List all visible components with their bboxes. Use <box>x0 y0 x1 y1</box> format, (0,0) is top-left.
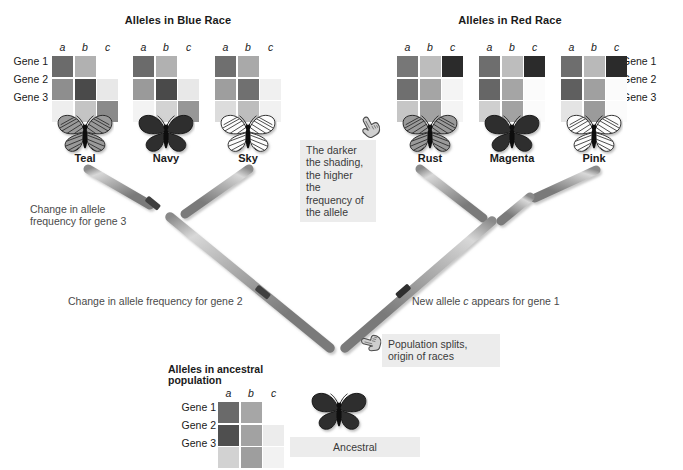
allele-column-headers: abc <box>133 42 199 53</box>
gene-label-3: Gene 3 <box>168 438 216 449</box>
allele-cell-gene1-b <box>156 56 177 77</box>
allele-column-headers: abc <box>218 388 284 399</box>
callout-shading-note: The darker the shading, the higher the f… <box>300 140 376 222</box>
allele-header-a: a <box>52 42 73 53</box>
allele-header-c: c <box>97 42 118 53</box>
allele-header-c: c <box>606 42 627 53</box>
allele-column-headers: abc <box>479 42 545 53</box>
ancestral-bar-label: Ancestral <box>290 437 420 457</box>
allele-cell-gene2-a <box>561 79 582 100</box>
gene-row-labels-ancestral: Gene 1 Gene 2 Gene 3 <box>168 402 216 449</box>
butterfly-icon <box>137 112 195 156</box>
butterfly-icon <box>310 390 368 434</box>
allele-cell-gene1-a <box>479 56 500 77</box>
gene-label-2: Gene 2 <box>622 74 680 85</box>
allele-header-a: a <box>561 42 582 53</box>
allele-column-headers: abc <box>397 42 463 53</box>
allele-header-a: a <box>397 42 418 53</box>
allele-cell-gene1-a <box>215 56 236 77</box>
allele-header-b: b <box>502 42 523 53</box>
callout-gene1-new-allele: New allele c appears for gene 1 <box>412 295 662 307</box>
allele-cell-gene1-c <box>606 56 627 77</box>
taxon-name-pink: Pink <box>561 152 627 164</box>
allele-header-c: c <box>442 42 463 53</box>
gene-row-labels-blue: Gene 1 Gene 2 Gene 3 <box>0 56 48 103</box>
allele-column-headers: abc <box>52 42 118 53</box>
butterfly-icon <box>401 112 459 156</box>
allele-cell-gene2-c <box>178 79 199 100</box>
gene-label-2: Gene 2 <box>168 420 216 431</box>
allele-header-b: b <box>584 42 605 53</box>
allele-header-b: b <box>238 42 259 53</box>
allele-cell-gene2-b <box>75 79 96 100</box>
allele-column-headers: abc <box>561 42 627 53</box>
allele-cell-gene2-b <box>156 79 177 100</box>
pointing-hand-icon <box>356 112 386 146</box>
allele-cell-gene1-a <box>133 56 154 77</box>
gene-row-labels-red: Gene 1 Gene 2 Gene 3 <box>622 56 680 103</box>
allele-cell-gene1-b <box>502 56 523 77</box>
allele-cell-gene3-a <box>218 447 239 468</box>
allele-cell-gene1-b <box>238 56 259 77</box>
blue-race-title: Alleles in Blue Race <box>88 14 268 26</box>
allele-cell-gene1-b <box>584 56 605 77</box>
allele-grid <box>218 402 284 468</box>
allele-cell-gene1-c <box>442 56 463 77</box>
allele-cell-gene2-b <box>502 79 523 100</box>
allele-header-c: c <box>263 388 284 399</box>
allele-header-a: a <box>218 388 239 399</box>
allele-cell-gene3-c <box>263 447 284 468</box>
allele-cell-gene2-c <box>606 79 627 100</box>
allele-cell-gene1-b <box>420 56 441 77</box>
allele-cell-gene2-b <box>584 79 605 100</box>
allele-cell-gene1-c <box>263 402 284 423</box>
butterfly-icon <box>56 112 114 156</box>
red-race-title: Alleles in Red Race <box>420 14 600 26</box>
butterfly-icon <box>219 112 277 156</box>
allele-cell-gene1-c <box>97 56 118 77</box>
allele-header-c: c <box>260 42 281 53</box>
new-allele-text-pre: New allele <box>412 295 463 307</box>
allele-header-a: a <box>133 42 154 53</box>
allele-cell-gene1-c <box>524 56 545 77</box>
gene-label-1: Gene 1 <box>0 56 48 67</box>
allele-cell-gene1-a <box>52 56 73 77</box>
new-allele-text-post: appears for gene 1 <box>469 295 560 307</box>
allele-header-b: b <box>241 388 262 399</box>
taxon-name-magenta: Magenta <box>479 152 545 164</box>
taxon-name-navy: Navy <box>133 152 199 164</box>
gene-label-1: Gene 1 <box>168 402 216 413</box>
allele-cell-gene2-c <box>97 79 118 100</box>
evolution-diagram: Alleles in Blue Race Alleles in Red Race… <box>0 0 683 470</box>
allele-cell-gene2-a <box>133 79 154 100</box>
taxon-name-rust: Rust <box>397 152 463 164</box>
allele-header-b: b <box>156 42 177 53</box>
gene-label-3: Gene 3 <box>622 92 680 103</box>
allele-cell-gene1-b <box>241 402 262 423</box>
butterfly-icon <box>565 112 623 156</box>
gene-label-1: Gene 1 <box>622 56 680 67</box>
allele-cell-gene2-c <box>442 79 463 100</box>
allele-cell-gene1-a <box>397 56 418 77</box>
callout-gene3-change: Change in allele frequency for gene 3 <box>30 203 160 228</box>
allele-header-c: c <box>524 42 545 53</box>
allele-header-a: a <box>479 42 500 53</box>
callout-gene2-change: Change in allele frequency for gene 2 <box>68 295 308 307</box>
allele-cell-gene2-c <box>524 79 545 100</box>
allele-header-b: b <box>75 42 96 53</box>
allele-header-a: a <box>215 42 236 53</box>
allele-cell-gene2-a <box>218 425 239 446</box>
callout-population-split: Population splits, origin of races <box>382 334 500 367</box>
allele-cell-gene2-a <box>52 79 73 100</box>
allele-cell-gene2-a <box>215 79 236 100</box>
taxon-name-teal: Teal <box>52 152 118 164</box>
allele-cell-gene2-b <box>420 79 441 100</box>
taxon-name-sky: Sky <box>215 152 281 164</box>
allele-cell-gene2-b <box>241 425 262 446</box>
gene-label-3: Gene 3 <box>0 92 48 103</box>
butterfly-icon <box>483 112 541 156</box>
allele-cell-gene2-a <box>479 79 500 100</box>
allele-cell-gene1-c <box>178 56 199 77</box>
allele-cell-gene2-a <box>397 79 418 100</box>
allele-cell-gene3-b <box>241 447 262 468</box>
